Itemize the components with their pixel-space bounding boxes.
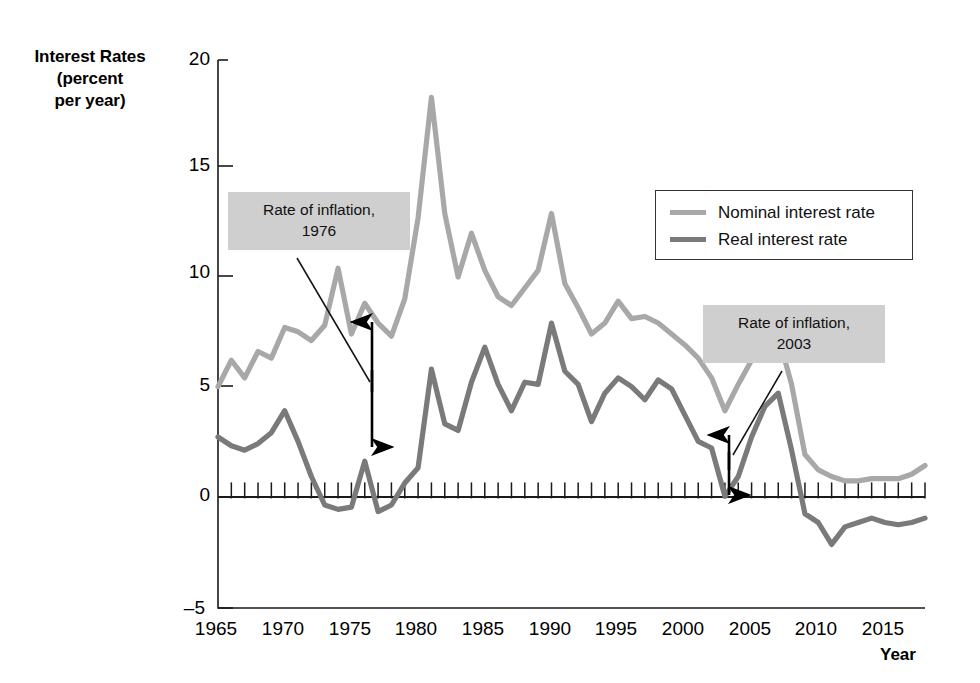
legend-label-nominal: Nominal interest rate (718, 203, 875, 223)
annotation-1976-line-1: Rate of inflation, (263, 201, 375, 218)
legend-label-real: Real interest rate (718, 230, 847, 250)
chart-figure: Interest Rates (percent per year) Year 2… (0, 0, 980, 683)
legend-swatch-nominal-icon (670, 210, 706, 215)
annotation-2003-line-2: 2003 (777, 335, 811, 352)
annotation-label-1976: Rate of inflation, 1976 (228, 192, 410, 250)
chart-legend: Nominal interest rate Real interest rate (655, 190, 913, 260)
legend-item-real: Real interest rate (670, 226, 912, 253)
annotation-label-2003: Rate of inflation, 2003 (703, 305, 885, 363)
legend-swatch-real-icon (670, 237, 706, 242)
annual-tick-marks (231, 482, 925, 498)
annotation-2003-line-1: Rate of inflation, (738, 314, 850, 331)
series-line-nominal (218, 97, 925, 481)
annotation-1976-line-2: 1976 (302, 222, 336, 239)
legend-item-nominal: Nominal interest rate (670, 199, 912, 226)
